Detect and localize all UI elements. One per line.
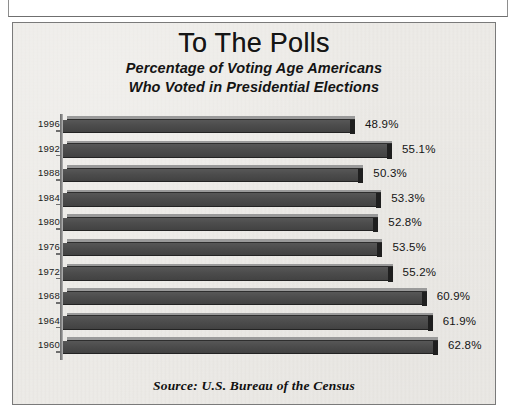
bar-front-face	[63, 341, 434, 355]
bar-right-cap	[387, 144, 392, 159]
bar-right-cap	[377, 243, 382, 258]
axis-tick	[56, 130, 61, 132]
chart-frame: To The Polls Percentage of Voting Age Am…	[12, 22, 496, 405]
title-block: To The Polls Percentage of Voting Age Am…	[13, 27, 495, 97]
bar-right-cap	[373, 218, 378, 233]
bar-right-cap	[358, 169, 363, 184]
bar-category-label: 1980	[26, 216, 60, 227]
bar-value-label: 53.3%	[391, 192, 425, 204]
bar-right-cap	[350, 120, 355, 135]
bar-value-label: 50.3%	[373, 167, 407, 179]
bar-row: 197255.2%	[13, 261, 496, 286]
chart-subtitle-line-2: Who Voted in Presidential Elections	[13, 78, 495, 97]
bar-category-label: 1976	[26, 241, 60, 252]
bar[interactable]	[63, 264, 393, 281]
bar-row: 198453.3%	[13, 187, 496, 212]
bar[interactable]	[63, 116, 355, 133]
chart-title: To The Polls	[13, 27, 495, 59]
axis-tick	[56, 351, 61, 353]
bar-category-label: 1996	[26, 118, 60, 129]
bar-category-label: 1972	[26, 266, 60, 277]
bar-front-face	[63, 120, 351, 134]
chart-subtitle-line-1: Percentage of Voting Age Americans	[13, 59, 495, 78]
bar-right-cap	[428, 316, 433, 331]
bar-front-face	[63, 169, 359, 183]
bar-row: 196461.9%	[13, 310, 496, 335]
axis-tick	[56, 278, 61, 280]
bar-row: 196062.8%	[13, 334, 496, 359]
bar-category-label: 1988	[26, 167, 60, 178]
bar-category-label: 1968	[26, 290, 60, 301]
plot-area: 199648.9%199255.1%198850.3%198453.3%1980…	[13, 113, 496, 363]
bar-value-label: 53.5%	[392, 241, 426, 253]
bar-category-label: 1964	[26, 315, 60, 326]
bar[interactable]	[63, 288, 427, 305]
bar-value-label: 55.2%	[403, 266, 437, 278]
bar[interactable]	[63, 337, 438, 354]
bar-value-label: 62.8%	[448, 339, 482, 351]
bar-right-cap	[376, 193, 381, 208]
bar[interactable]	[63, 313, 433, 330]
bar-category-label: 1984	[26, 192, 60, 203]
bar-row: 199648.9%	[13, 113, 496, 138]
bar-right-cap	[433, 341, 438, 356]
bar-value-label: 55.1%	[402, 143, 436, 155]
bar-front-face	[63, 243, 378, 257]
bar-value-label: 48.9%	[365, 118, 399, 130]
bar-category-label: 1960	[26, 339, 60, 350]
bar-row: 198850.3%	[13, 162, 496, 187]
bar[interactable]	[63, 214, 378, 231]
bar[interactable]	[63, 165, 363, 182]
bar-right-cap	[388, 267, 393, 282]
axis-tick	[56, 179, 61, 181]
bar-value-label: 61.9%	[443, 315, 477, 327]
bar-row: 197653.5%	[13, 236, 496, 261]
bar[interactable]	[63, 190, 381, 207]
bar-front-face	[63, 193, 377, 207]
bar[interactable]	[63, 141, 392, 158]
bar-value-label: 52.8%	[388, 216, 422, 228]
bar-value-label: 60.9%	[437, 290, 471, 302]
bar-front-face	[63, 144, 388, 158]
bar-row: 196860.9%	[13, 285, 496, 310]
axis-tick	[56, 327, 61, 329]
axis-tick	[56, 155, 61, 157]
bar-front-face	[63, 316, 429, 330]
bar-category-label: 1992	[26, 143, 60, 154]
bar-row: 198052.8%	[13, 211, 496, 236]
axis-tick	[56, 253, 61, 255]
source-note: Source: U.S. Bureau of the Census	[13, 378, 495, 394]
bar-row: 199255.1%	[13, 138, 496, 163]
bar-right-cap	[422, 292, 427, 307]
bar-front-face	[63, 218, 374, 232]
axis-tick	[56, 204, 61, 206]
bar-front-face	[63, 267, 389, 281]
top-clipped-border-strip	[8, 0, 508, 17]
axis-tick	[56, 302, 61, 304]
bar-front-face	[63, 292, 423, 306]
bar[interactable]	[63, 239, 382, 256]
axis-tick	[56, 228, 61, 230]
